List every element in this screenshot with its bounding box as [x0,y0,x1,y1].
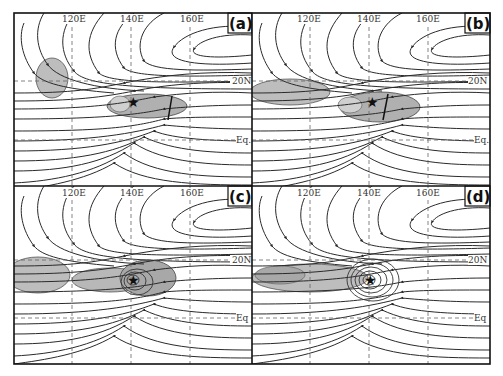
lon-label: 160E [180,188,204,198]
star-icon: ★ [127,94,140,110]
lat-label: 20N [232,76,251,86]
lon-label: 140E [120,188,144,198]
lat-label: 20N [468,76,487,86]
star-icon: ★ [127,272,140,288]
panel-c: ★ 120E 140E 160E 20N Eq (c) [6,186,252,364]
panel-label: (d) [466,188,490,206]
lon-label: 140E [357,14,381,24]
panel-a: ★ 120E 140E 160E 20N Eq. (a) [14,13,253,191]
lat-label: 20N [468,255,487,265]
panel-d: ★ 120E 140E 160E 20N Eq (d) [252,186,490,364]
shaded-region [6,257,70,293]
lat-label: Eq. [236,135,251,145]
lon-label: 120E [297,188,321,198]
lon-label: 160E [416,188,440,198]
streamline-figure: ★ 120E 140E 160E 20N Eq. (a) [0,0,503,376]
lat-label: Eq [474,313,487,323]
panel-label: (a) [229,15,253,33]
lon-label: 140E [357,188,381,198]
lat-label: 20N [232,255,251,265]
star-icon: ★ [366,94,379,110]
lon-label: 120E [62,14,86,24]
lon-label: 160E [180,14,204,24]
panel-b: ★ 120E 140E 160E 20N Eq. (b) [250,13,490,191]
panel-label: (c) [229,188,252,206]
lat-label: Eq [236,313,249,323]
lon-label: 120E [62,188,86,198]
star-icon: ★ [364,272,377,288]
lat-label: Eq. [474,135,489,145]
lon-label: 140E [120,14,144,24]
lon-label: 160E [416,14,440,24]
figure-canvas: ★ 120E 140E 160E 20N Eq. (a) [0,0,503,376]
lon-label: 120E [297,14,321,24]
panel-label: (b) [466,15,490,33]
